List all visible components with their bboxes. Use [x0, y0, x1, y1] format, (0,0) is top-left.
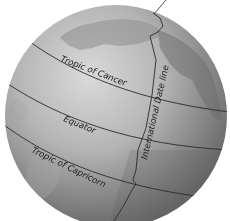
globe-diagram: Tropic of Cancer Equator Tropic of Capri… [0, 0, 230, 221]
pointer-line [154, 0, 166, 14]
